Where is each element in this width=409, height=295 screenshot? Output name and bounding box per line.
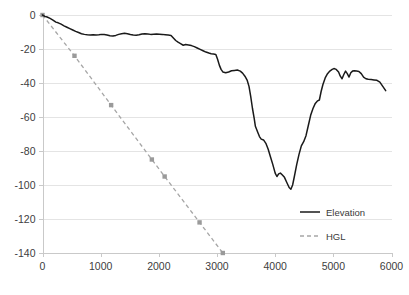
chart-container: 0-20-40-60-80-100-120-140 01000200030004… xyxy=(0,0,409,295)
x-tick-label-5000: 5000 xyxy=(322,260,346,272)
x-tick-label-0: 0 xyxy=(40,260,46,272)
elevation-hgl-line-chart: 0-20-40-60-80-100-120-140 01000200030004… xyxy=(0,0,409,295)
legend-label-hgl: HGL xyxy=(326,231,346,242)
y-axis-tick-labels: 0-20-40-60-80-100-120-140 xyxy=(14,9,35,259)
x-tick-label-1000: 1000 xyxy=(89,260,113,272)
y-tick-label--140: -140 xyxy=(14,247,35,259)
gridlines xyxy=(43,16,392,254)
x-tick-label-4000: 4000 xyxy=(263,260,287,272)
series-elevation-line xyxy=(43,15,386,189)
y-tick-label--40: -40 xyxy=(20,77,35,89)
legend-label-elevation: Elevation xyxy=(326,207,365,218)
y-tick-label-0: 0 xyxy=(30,9,36,21)
hgl-data-marker-3 xyxy=(150,157,154,161)
hgl-polyline xyxy=(43,15,223,253)
series-hgl-line xyxy=(43,15,223,253)
hgl-data-marker-5 xyxy=(197,220,201,224)
elevation-polyline xyxy=(43,15,386,189)
x-axis-tick-labels: 0100020003000400050006000 xyxy=(40,260,404,272)
hgl-data-marker-4 xyxy=(162,174,166,178)
y-tick-label--60: -60 xyxy=(20,111,35,123)
hgl-data-marker-2 xyxy=(109,103,113,107)
x-tick-label-2000: 2000 xyxy=(147,260,171,272)
hgl-data-marker-1 xyxy=(72,54,76,58)
x-tick-label-3000: 3000 xyxy=(205,260,229,272)
y-tick-label--80: -80 xyxy=(20,145,35,157)
chart-legend: ElevationHGL xyxy=(300,207,365,242)
axes xyxy=(39,15,393,257)
y-tick-label--20: -20 xyxy=(20,43,35,55)
x-tick-label-6000: 6000 xyxy=(380,260,404,272)
y-tick-label--120: -120 xyxy=(14,213,35,225)
hgl-data-marker-6 xyxy=(221,251,225,255)
y-tick-label--100: -100 xyxy=(14,179,35,191)
